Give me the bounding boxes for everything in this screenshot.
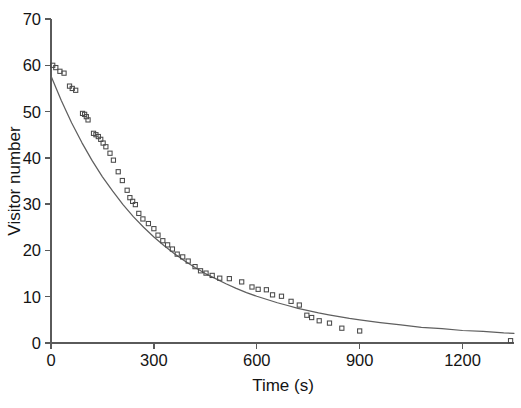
data-point (289, 299, 293, 303)
data-point (116, 170, 120, 174)
y-tick-label-60: 60 (23, 56, 41, 74)
data-point (111, 158, 115, 162)
y-axis-title: Visitor number (5, 126, 24, 236)
data-point (256, 287, 260, 291)
data-point (141, 217, 145, 221)
y-tick-label-20: 20 (23, 241, 41, 259)
data-point (58, 69, 62, 73)
x-axis-ticks (51, 343, 463, 349)
data-point (166, 243, 170, 247)
data-point (508, 339, 512, 343)
y-tick-label-10: 10 (23, 288, 41, 306)
x-tick-label-600: 600 (243, 351, 271, 369)
data-point (227, 277, 231, 281)
exponential-fit-curve (51, 76, 514, 333)
data-point (62, 71, 66, 75)
chart-figure: 010203040506070 03006009001200 Visitor n… (0, 0, 521, 408)
data-point (152, 227, 156, 231)
data-point (250, 285, 254, 289)
y-tick-label-30: 30 (23, 195, 41, 213)
x-tick-labels: 03006009001200 (46, 351, 481, 369)
scatter-plot-svg: 010203040506070 03006009001200 Visitor n… (0, 0, 521, 408)
data-point (279, 294, 283, 298)
x-axis-title: Time (s) (252, 376, 314, 395)
data-point (156, 233, 160, 237)
x-tick-label-900: 900 (346, 351, 374, 369)
data-point (310, 315, 314, 319)
data-point (108, 151, 112, 155)
data-point (146, 221, 150, 225)
x-tick-label-300: 300 (140, 351, 168, 369)
data-point (340, 326, 344, 330)
data-point-markers (51, 63, 513, 343)
y-tick-label-40: 40 (23, 149, 41, 167)
data-point (270, 293, 274, 297)
data-point (305, 313, 309, 317)
data-point (161, 239, 165, 243)
data-point (240, 280, 244, 284)
data-point (125, 188, 129, 192)
x-tick-label-0: 0 (46, 351, 55, 369)
y-tick-labels: 010203040506070 (23, 10, 41, 352)
data-point (297, 303, 301, 307)
data-point (317, 319, 321, 323)
x-tick-label-1200: 1200 (444, 351, 481, 369)
y-tick-label-50: 50 (23, 103, 41, 121)
data-point (264, 288, 268, 292)
data-point (120, 178, 124, 182)
y-tick-label-70: 70 (23, 10, 41, 28)
data-point (358, 329, 362, 333)
data-point (327, 321, 331, 325)
data-point (137, 211, 141, 215)
y-tick-label-0: 0 (32, 334, 41, 352)
